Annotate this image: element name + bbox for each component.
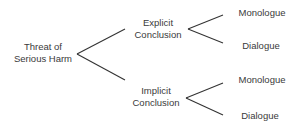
branch-explicit: Explicit Conclusion — [128, 17, 188, 41]
edge-explicit-dialogue — [188, 29, 223, 43]
edge-implicit-monologue — [186, 83, 223, 98]
leaf-explicit-dialogue: Dialogue — [236, 40, 286, 52]
root-line1: Threat of — [10, 41, 76, 53]
edge-explicit-monologue — [188, 15, 223, 29]
edge-root-implicit — [77, 54, 125, 80]
branch-explicit-line2: Conclusion — [128, 29, 188, 41]
root-node: Threat of Serious Harm — [10, 41, 76, 65]
edge-implicit-dialogue — [186, 98, 223, 115]
branch-implicit: Implicit Conclusion — [126, 85, 186, 109]
branch-implicit-line2: Conclusion — [126, 97, 186, 109]
leaf-implicit-monologue: Monologue — [233, 74, 291, 86]
leaf-explicit-monologue: Monologue — [233, 7, 291, 19]
root-line2: Serious Harm — [10, 53, 76, 65]
leaf-implicit-dialogue: Dialogue — [235, 110, 285, 122]
branch-explicit-line1: Explicit — [128, 17, 188, 29]
branch-implicit-line1: Implicit — [126, 85, 186, 97]
edge-root-explicit — [77, 29, 125, 54]
